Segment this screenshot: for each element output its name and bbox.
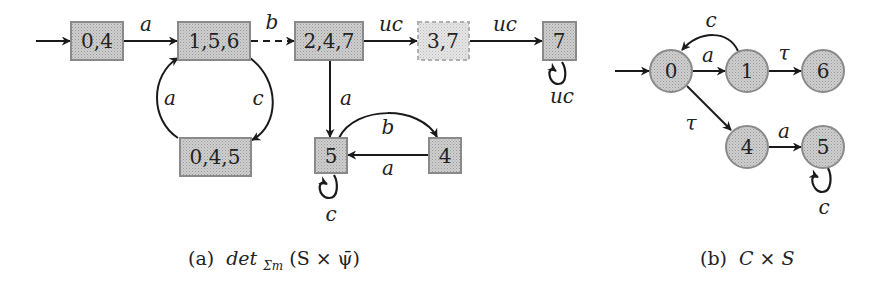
caption-a-subscript: Σm [262,259,283,273]
state-circle-5[interactable]: 5 [802,126,844,168]
svg-text:τ: τ [778,41,790,65]
svg-text:uc: uc [379,12,403,36]
edge-b-156-247: b [251,10,294,41]
svg-text:b: b [382,115,395,139]
caption-a: (a) det Σm (S × ψ̄) [188,247,360,274]
state-node-7[interactable]: 7 [543,22,576,60]
diagram-a: a b uc uc uc c a a [36,10,576,274]
state-node-3-7[interactable]: 3,7 [418,22,469,60]
state-circle-1[interactable]: 1 [726,50,768,92]
state-node-4[interactable]: 4 [429,138,461,173]
diagram-b: a c τ τ a c 0 1 [615,8,844,269]
caption-a-prefix: (a) [188,247,214,269]
caption-a-rest: (S × ψ̄) [289,247,360,269]
svg-text:c: c [252,86,263,110]
edge-c-156-045: c [250,58,273,140]
svg-text:1: 1 [741,59,754,83]
svg-text:c: c [818,195,829,219]
svg-text:0,4: 0,4 [81,29,113,53]
edge-a-4-5: a [769,119,801,147]
state-node-2-4-7[interactable]: 2,4,7 [295,22,363,60]
svg-text:2,4,7: 2,4,7 [304,29,355,53]
svg-text:a: a [164,86,176,110]
svg-text:4: 4 [741,135,754,159]
svg-text:a: a [702,43,714,67]
edge-a-4-5: a [348,155,428,180]
edge-uc-37-7: uc [470,12,542,41]
caption-a-det: det [226,247,257,269]
svg-text:a: a [140,12,152,36]
state-circle-4[interactable]: 4 [726,126,768,168]
edge-a-0-1: a [693,43,725,71]
state-circle-0[interactable]: 0 [650,50,692,92]
svg-text:3,7: 3,7 [427,29,459,53]
edge-tau-0-4: τ [685,86,731,135]
svg-text:(a) det Σm: (a) det Σm (S × ψ̄) [188,247,360,274]
state-node-5[interactable]: 5 [315,138,347,173]
svg-text:c: c [705,8,716,32]
svg-text:τ: τ [685,111,697,135]
edge-c-5-loop: c [320,175,337,226]
svg-text:b: b [266,10,279,34]
svg-text:0: 0 [665,59,678,83]
edge-uc-247-37: uc [364,12,417,41]
svg-text:(b) C × S: (b) C × S [700,247,795,269]
svg-text:7: 7 [553,29,566,53]
svg-text:0,4,5: 0,4,5 [190,145,241,169]
edge-tau-1-6: τ [769,41,801,71]
svg-text:5: 5 [817,135,830,159]
state-node-1-5-6[interactable]: 1,5,6 [178,22,250,60]
edge-uc-7-loop: uc [549,62,574,108]
state-node-0-4[interactable]: 0,4 [71,22,123,60]
svg-text:a: a [778,119,790,143]
edge-c-5-loop-b: c [812,168,830,219]
svg-text:4: 4 [439,144,452,168]
svg-text:c: c [325,202,336,226]
svg-text:a: a [382,156,394,180]
state-circle-6[interactable]: 6 [802,50,844,92]
svg-text:6: 6 [817,59,830,83]
caption-b: (b) C × S [700,247,795,269]
svg-text:1,5,6: 1,5,6 [189,29,240,53]
svg-text:5: 5 [325,144,338,168]
edge-b-5-4: b [339,113,437,139]
caption-b-math: C × S [739,247,795,269]
svg-text:uc: uc [550,84,574,108]
svg-text:uc: uc [493,12,517,36]
state-node-0-4-5[interactable]: 0,4,5 [180,138,251,176]
svg-text:a: a [340,86,352,110]
caption-b-prefix: (b) [700,247,727,269]
edge-a-045-156: a [157,58,178,138]
edge-a-04-156: a [123,12,177,41]
automata-figure: a b uc uc uc c a a [0,0,881,287]
